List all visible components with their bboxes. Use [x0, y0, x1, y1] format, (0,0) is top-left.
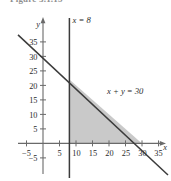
y-tick-label: 10	[29, 111, 37, 120]
label-x-equals-8: x = 8	[72, 15, 92, 25]
y-axis-label: y	[35, 20, 40, 29]
label-x-plus-y-equals-30: x + y = 30	[106, 86, 144, 96]
figure-container: Figure 3.1.15	[0, 0, 171, 181]
x-tick-label: 15	[89, 149, 97, 158]
x-tick-label: 10	[72, 149, 80, 158]
y-axis	[41, 17, 46, 174]
y-tick-label: 20	[29, 82, 37, 91]
coordinate-plot: −5 5 10 15 20 25 30 35 −5 5 10 15 20 25 …	[0, 0, 171, 181]
x-tick-label: 20	[105, 149, 113, 158]
x-tick-label: 25	[122, 149, 130, 158]
x-axis-label: x	[162, 143, 167, 152]
x-tick-label: 35	[154, 149, 162, 158]
y-tick-label: 5	[33, 125, 37, 134]
x-tick-label: 5	[57, 149, 61, 158]
y-tick-label: 25	[29, 67, 37, 76]
y-tick-label: 15	[29, 96, 37, 105]
y-tick-label: 30	[29, 53, 37, 62]
y-tick-labels: −5 5 10 15 20 25 30 35	[29, 38, 38, 163]
y-tick-label: −5	[29, 154, 38, 163]
